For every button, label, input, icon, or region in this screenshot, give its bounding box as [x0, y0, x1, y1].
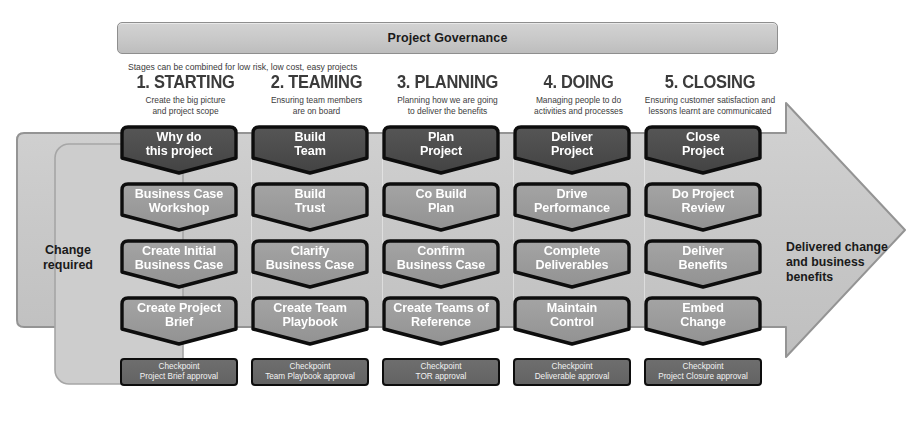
checkpoint-2-detail: Team Playbook approval: [265, 372, 355, 382]
stage-subtitle-4-line2: activities and processes: [515, 106, 642, 117]
step-label-5-4: EmbedChange: [680, 301, 726, 330]
step-label-2-4: Create TeamPlaybook: [273, 301, 347, 330]
step-label-4-2: DrivePerformance: [534, 187, 610, 216]
step-box-3-2[interactable]: Co BuildPlan: [382, 182, 500, 232]
change-required-label: Change required: [22, 243, 114, 272]
step-label-5-3: DeliverBenefits: [679, 244, 728, 273]
stage-subtitle-5: Ensuring customer satisfaction and lesso…: [634, 95, 786, 116]
step-box-5-4[interactable]: EmbedChange: [644, 296, 762, 346]
step-label-5-1: CloseProject: [682, 130, 724, 159]
step-row-4: Create ProjectBrief Create TeamPlaybook …: [120, 296, 780, 353]
checkpoint-3[interactable]: Checkpoint TOR approval: [382, 358, 500, 386]
process-diagram: Project Governance Stages can be combine…: [0, 0, 922, 431]
stage-subtitle-4-line1: Managing people to do: [515, 95, 642, 106]
step-box-3-4[interactable]: Create Teams ofReference: [382, 296, 500, 346]
step-box-1-4[interactable]: Create ProjectBrief: [120, 296, 238, 346]
step-box-4-2[interactable]: DrivePerformance: [513, 182, 631, 232]
step-box-4-1[interactable]: DeliverProject: [513, 125, 631, 175]
stage-subtitle-4: Managing people to do activities and pro…: [513, 95, 644, 116]
step-box-4-4[interactable]: MaintainControl: [513, 296, 631, 346]
step-label-3-1: PlanProject: [420, 130, 462, 159]
step-box-2-1[interactable]: BuildTeam: [251, 125, 369, 175]
step-box-4-3[interactable]: CompleteDeliverables: [513, 239, 631, 289]
checkpoint-2[interactable]: Checkpoint Team Playbook approval: [251, 358, 369, 386]
delivered-change-label: Delivered change and business benefits: [786, 240, 904, 285]
step-label-2-2: BuildTrust: [295, 187, 326, 216]
stage-subtitle-5-line2: lessons learnt are communicated: [636, 106, 784, 117]
stage-column-3: 3. PLANNING Planning how we are going to…: [382, 72, 513, 116]
stage-column-5: 5. CLOSING Ensuring customer satisfactio…: [634, 72, 786, 116]
step-box-1-1[interactable]: Why dothis project: [120, 125, 238, 175]
project-governance-bar: Project Governance: [117, 22, 778, 54]
checkpoint-2-title: Checkpoint: [290, 362, 331, 372]
stage-subtitle-2-line1: Ensuring team members: [253, 95, 380, 106]
stage-subtitle-3-line1: Planning how we are going: [384, 95, 511, 106]
step-box-3-3[interactable]: ConfirmBusiness Case: [382, 239, 500, 289]
step-label-4-3: CompleteDeliverables: [535, 244, 608, 273]
stage-column-1: 1. STARTING Create the big picture and p…: [120, 72, 251, 116]
stage-column-4: 4. DOING Managing people to do activitie…: [513, 72, 644, 116]
step-label-1-2: Business CaseWorkshop: [135, 187, 223, 216]
project-governance-label: Project Governance: [388, 31, 508, 45]
step-label-4-1: DeliverProject: [551, 130, 593, 159]
step-box-2-3[interactable]: ClarifyBusiness Case: [251, 239, 369, 289]
change-required-line2: required: [22, 258, 114, 273]
step-label-3-4: Create Teams ofReference: [393, 301, 489, 330]
step-row-2: Business CaseWorkshop BuildTrust Co Buil…: [120, 182, 780, 239]
stage-subtitle-1-line1: Create the big picture: [122, 95, 249, 106]
step-label-1-3: Create InitialBusiness Case: [135, 244, 223, 273]
step-label-1-4: Create ProjectBrief: [137, 301, 221, 330]
stage-column-2: 2. TEAMING Ensuring team members are on …: [251, 72, 382, 116]
stages-combined-note: Stages can be combined for low risk, low…: [128, 62, 357, 72]
step-label-1-1: Why dothis project: [146, 130, 213, 159]
stage-title-4: 4. DOING: [517, 72, 640, 92]
step-box-1-3[interactable]: Create InitialBusiness Case: [120, 239, 238, 289]
step-box-2-2[interactable]: BuildTrust: [251, 182, 369, 232]
step-box-5-3[interactable]: DeliverBenefits: [644, 239, 762, 289]
step-box-2-4[interactable]: Create TeamPlaybook: [251, 296, 369, 346]
checkpoint-5-detail: Project Closure approval: [658, 372, 748, 382]
checkpoint-5-title: Checkpoint: [683, 362, 724, 372]
delivered-change-line3: benefits: [786, 270, 904, 285]
checkpoint-1[interactable]: Checkpoint Project Brief approval: [120, 358, 238, 386]
change-required-line1: Change: [22, 243, 114, 258]
stage-subtitle-2: Ensuring team members are on board: [251, 95, 382, 116]
checkpoint-4[interactable]: Checkpoint Deliverable approval: [513, 358, 631, 386]
stage-title-1: 1. STARTING: [124, 72, 247, 92]
checkpoint-1-detail: Project Brief approval: [140, 372, 218, 382]
step-label-3-3: ConfirmBusiness Case: [397, 244, 485, 273]
stage-subtitle-1: Create the big picture and project scope: [120, 95, 251, 116]
step-grid: Why dothis project BuildTeam PlanProject: [120, 125, 780, 353]
step-label-4-4: MaintainControl: [547, 301, 597, 330]
checkpoint-4-title: Checkpoint: [552, 362, 593, 372]
stage-subtitle-5-line1: Ensuring customer satisfaction and: [636, 95, 784, 106]
step-row-3: Create InitialBusiness Case ClarifyBusin…: [120, 239, 780, 296]
stage-title-3: 3. PLANNING: [386, 72, 509, 92]
checkpoint-3-detail: TOR approval: [416, 372, 467, 382]
stage-title-2: 2. TEAMING: [255, 72, 378, 92]
stage-subtitle-2-line2: are on board: [253, 106, 380, 117]
checkpoint-1-title: Checkpoint: [159, 362, 200, 372]
step-label-2-3: ClarifyBusiness Case: [266, 244, 354, 273]
checkpoint-row: Checkpoint Project Brief approval Checkp…: [120, 358, 780, 390]
step-label-5-2: Do ProjectReview: [672, 187, 734, 216]
step-row-1: Why dothis project BuildTeam PlanProject: [120, 125, 780, 182]
checkpoint-3-title: Checkpoint: [421, 362, 462, 372]
stage-subtitle-1-line2: and project scope: [122, 106, 249, 117]
step-box-1-2[interactable]: Business CaseWorkshop: [120, 182, 238, 232]
stage-subtitle-3-line2: to deliver the benefits: [384, 106, 511, 117]
step-box-5-2[interactable]: Do ProjectReview: [644, 182, 762, 232]
delivered-change-line1: Delivered change: [786, 240, 904, 255]
stage-subtitle-3: Planning how we are going to deliver the…: [382, 95, 513, 116]
stage-title-5: 5. CLOSING: [639, 72, 782, 92]
delivered-change-line2: and business: [786, 255, 904, 270]
step-box-3-1[interactable]: PlanProject: [382, 125, 500, 175]
step-box-5-1[interactable]: CloseProject: [644, 125, 762, 175]
checkpoint-5[interactable]: Checkpoint Project Closure approval: [644, 358, 762, 386]
checkpoint-4-detail: Deliverable approval: [535, 372, 610, 382]
step-label-2-1: BuildTeam: [294, 130, 326, 159]
step-label-3-2: Co BuildPlan: [416, 187, 467, 216]
